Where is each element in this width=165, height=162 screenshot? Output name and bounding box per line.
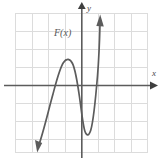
- coordinate-plane-svg: F(x) x y: [0, 0, 165, 162]
- curve-right-arrowhead-icon: [96, 15, 104, 27]
- function-label: F(x): [53, 27, 72, 39]
- y-axis-label: y: [86, 3, 91, 13]
- curve-left-arrowhead-icon: [35, 140, 42, 153]
- x-axis-label: x: [151, 68, 156, 78]
- graph-figure: F(x) x y: [0, 0, 165, 162]
- y-axis-arrowhead-icon: [78, 2, 86, 9]
- y-axis: [78, 2, 86, 158]
- x-axis-arrowhead-icon: [150, 82, 158, 90]
